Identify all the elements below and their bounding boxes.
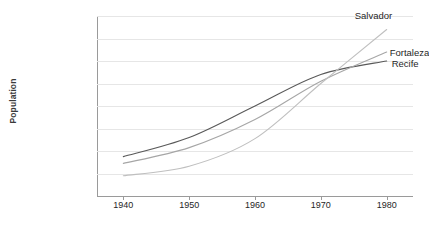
x-tick-label: 1960 [225, 200, 285, 210]
series-lines [97, 16, 413, 197]
series-line-recife [123, 61, 386, 157]
series-line-salvador [123, 30, 386, 176]
x-tick-label: 1970 [291, 200, 351, 210]
series-label-recife: Recife [392, 58, 419, 69]
series-line-fortaleza [123, 52, 386, 163]
x-tick-label: 1980 [357, 200, 417, 210]
x-tick-label: 1950 [159, 200, 219, 210]
x-tick-label: 1940 [93, 200, 153, 210]
series-label-fortaleza: Fortaleza [390, 47, 429, 58]
series-label-salvador: Salvador [355, 10, 393, 21]
y-axis-title: Population [8, 65, 18, 137]
